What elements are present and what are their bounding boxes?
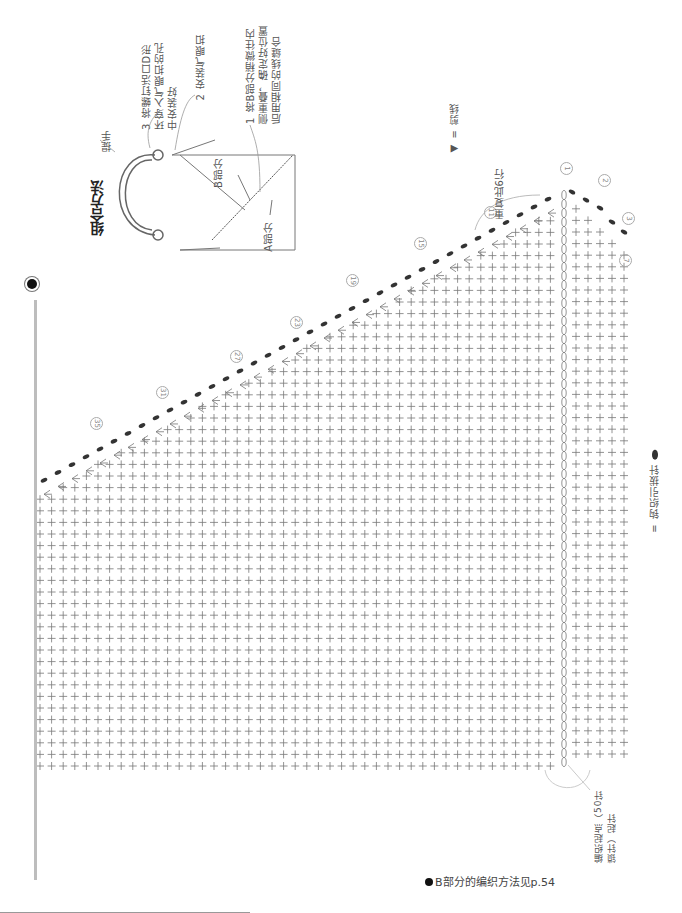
row-marker: 1	[560, 162, 573, 175]
footer-note-text: B部分的编织方法见p.54	[435, 876, 555, 889]
row-marker: 27	[230, 350, 243, 363]
row-marker: 7	[619, 254, 632, 267]
row-marker: 3	[622, 212, 635, 225]
repeat-note: 重复此6行	[493, 168, 506, 219]
footer-note: B部分的编织方法见p.54	[425, 873, 555, 889]
decrease-edge	[40, 189, 628, 499]
stitch-grid	[36, 205, 628, 770]
diagram-graphics	[0, 0, 682, 913]
left-margin-bar	[34, 300, 37, 880]
legend-cut-yarn: ◀ = 剪线	[448, 103, 461, 155]
row-marker: 35	[90, 417, 103, 430]
handle-icon	[119, 150, 163, 240]
row-marker: 19	[346, 274, 359, 287]
slip-stitch-icon	[652, 450, 658, 460]
bullet-icon	[425, 878, 433, 886]
row-marker: 31	[156, 386, 169, 399]
foundation-chain	[562, 191, 566, 767]
start-note: 编织起点（50针锁针）起针	[592, 783, 618, 863]
start-arc	[545, 770, 590, 788]
bag-outline	[172, 140, 295, 250]
section-bullet-icon	[27, 279, 37, 289]
row-marker: 15	[414, 237, 427, 250]
slip-stitch-label: = 钩织引拔针	[649, 464, 660, 533]
legend-slip-stitch: = 钩织引拔针	[648, 450, 661, 533]
row-marker: 2	[598, 174, 611, 187]
row-marker: 23	[290, 316, 303, 329]
